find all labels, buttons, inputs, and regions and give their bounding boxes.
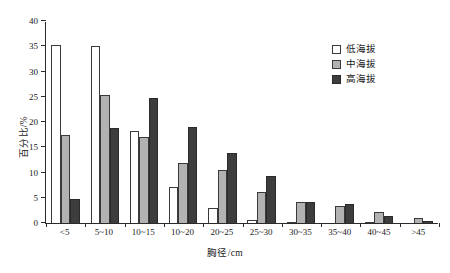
x-axis-tick [125, 223, 126, 227]
bar [296, 202, 306, 223]
bar [70, 199, 80, 223]
legend-swatch-icon [332, 60, 341, 69]
x-axis-tick [400, 223, 401, 227]
y-axis-tick-label: 20 [29, 118, 38, 127]
bar [266, 176, 276, 223]
bar [247, 220, 257, 223]
y-axis-tick-label: 10 [29, 168, 38, 177]
bar-group [399, 22, 438, 223]
x-axis-tick-label: <5 [45, 228, 84, 237]
x-axis-tick-label: 25~30 [242, 228, 281, 237]
bar-group [203, 22, 242, 223]
legend: 低海拔中海拔高海拔 [332, 44, 376, 89]
legend-swatch-icon [332, 75, 341, 84]
x-axis-tick-label: 10~20 [163, 228, 202, 237]
y-axis-tick-label: 30 [29, 67, 38, 76]
bar-groups [46, 22, 438, 223]
x-axis-tick-label: 30~35 [281, 228, 320, 237]
bar-chart: 百分比/% 0510152025303540 <55~1010~1510~202… [0, 0, 450, 273]
legend-item: 中海拔 [332, 59, 376, 70]
x-axis-tick-label: 20~25 [202, 228, 241, 237]
bar [130, 131, 140, 223]
bar [335, 206, 345, 223]
x-axis-tick-label: >45 [399, 228, 438, 237]
y-axis-tick-label: 35 [29, 42, 38, 51]
x-axis-tick [164, 223, 165, 227]
bar [306, 202, 316, 223]
bar-group [242, 22, 281, 223]
x-axis-title: 胸径/cm [0, 245, 450, 259]
bar [345, 204, 355, 223]
bar [365, 222, 375, 224]
x-axis-tick [243, 223, 244, 227]
plot-area: 0510152025303540 [45, 22, 438, 224]
bar [100, 95, 110, 223]
bar [51, 45, 61, 223]
x-axis-tick-label: 40~45 [359, 228, 398, 237]
y-axis-tick-label: 15 [29, 143, 38, 152]
bar-group [124, 22, 163, 223]
bar [384, 216, 394, 223]
y-axis-tick: 40 [41, 20, 46, 21]
y-axis-tick-label: 40 [29, 17, 38, 26]
bar-group [85, 22, 124, 223]
bar-group [281, 22, 320, 223]
y-axis-tick-label: 5 [34, 193, 39, 202]
bar [91, 46, 101, 223]
legend-item-label: 高海拔 [346, 75, 376, 85]
x-axis-tick-label: 10~15 [124, 228, 163, 237]
x-axis-tick [203, 223, 204, 227]
x-axis-tick [85, 223, 86, 227]
bar-group [164, 22, 203, 223]
bar [414, 218, 424, 223]
bar [218, 170, 228, 223]
x-axis-tick [46, 223, 47, 227]
bar [257, 192, 267, 223]
y-axis-tick-label: 25 [29, 92, 38, 101]
bar [227, 153, 237, 223]
x-axis-tick [439, 223, 440, 227]
bar [110, 128, 120, 223]
bar [149, 98, 159, 223]
x-axis-tick-label: 35~40 [320, 228, 359, 237]
bar [178, 163, 188, 223]
bar [61, 135, 71, 223]
bar [287, 222, 297, 224]
y-axis-tick-label: 0 [34, 219, 39, 228]
legend-item: 低海拔 [332, 44, 376, 55]
bar [169, 187, 179, 223]
y-axis-title: 百分比/% [16, 115, 30, 157]
legend-swatch-icon [332, 45, 341, 54]
legend-item-label: 低海拔 [346, 45, 376, 55]
bar [423, 221, 433, 223]
legend-item: 高海拔 [332, 74, 376, 85]
bar [188, 127, 198, 223]
bar-group [46, 22, 85, 223]
bar [139, 137, 149, 223]
x-axis-tick [321, 223, 322, 227]
legend-item-label: 中海拔 [346, 60, 376, 70]
bar [374, 212, 384, 223]
bar [208, 208, 218, 223]
x-axis-tick [360, 223, 361, 227]
x-axis-tick [282, 223, 283, 227]
x-axis-tick-label: 5~10 [84, 228, 123, 237]
